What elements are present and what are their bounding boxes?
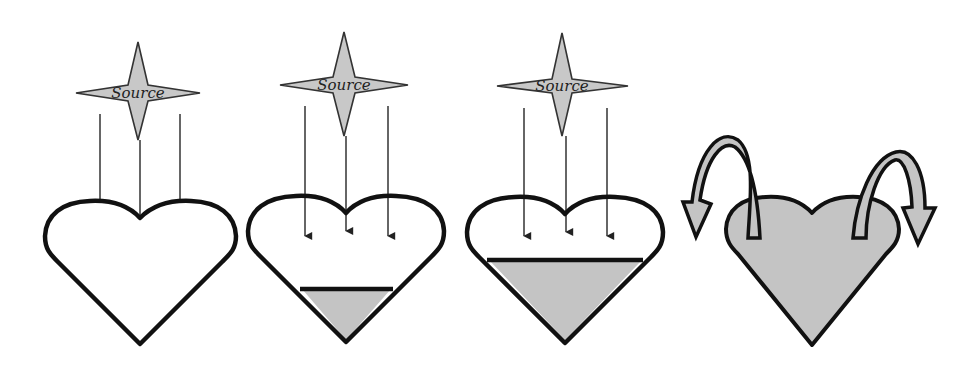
panel-empty: Source	[45, 42, 236, 344]
panel-overflowing	[683, 137, 935, 345]
rays	[524, 108, 607, 236]
source-star-icon: Source	[76, 42, 200, 140]
source-label: Source	[317, 76, 371, 94]
heart-fill-medium	[489, 260, 642, 340]
overflow-arrow-left-icon	[683, 137, 760, 238]
source-star-icon: Source	[280, 32, 408, 136]
source-label: Source	[535, 77, 589, 95]
source-star-icon: Source	[497, 33, 628, 136]
panel-partially-filled: Source	[248, 32, 444, 342]
heart-filling-diagram: Source Source Source	[0, 0, 971, 371]
source-label: Source	[111, 84, 165, 102]
heart-empty	[45, 201, 236, 344]
panel-more-filled: Source	[467, 33, 663, 343]
